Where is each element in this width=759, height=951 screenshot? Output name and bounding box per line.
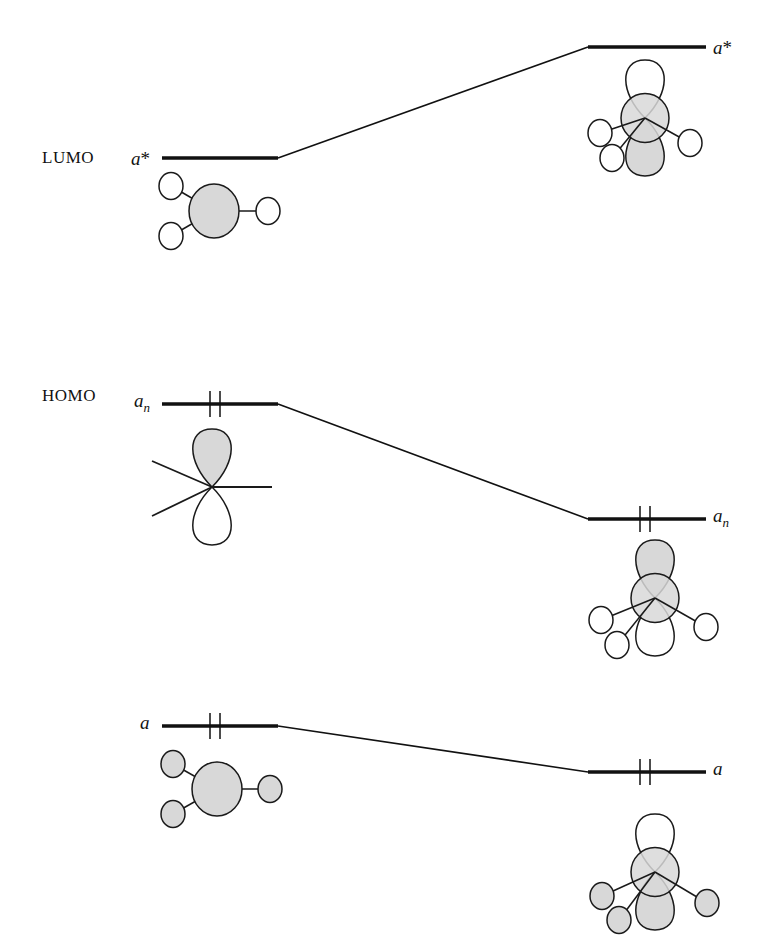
energy-level-left-a (162, 713, 278, 739)
level-label-right-a-n: an (713, 505, 729, 531)
level-label-left-a: a (140, 712, 150, 734)
orbital-ligand-lobe-left-a-star-orbital-2 (256, 198, 280, 225)
orbital-ligand-lobe-right-a-n-orbital-0 (589, 607, 613, 634)
orbital-ligand-lobe-right-a-n-orbital-2 (694, 614, 718, 641)
energy-level-right-a-n (588, 506, 706, 532)
level-label-right-a-star: a* (713, 37, 732, 59)
orbital-left-a-n-orbital (152, 429, 272, 545)
orbital-ligand-lobe-right-a-n-orbital-1 (605, 632, 629, 659)
orbital-ligand-lobe-left-a-orbital-0 (161, 751, 185, 778)
correlation-line-left-a-star (278, 47, 588, 158)
level-label-left-a-n: an (134, 390, 150, 416)
orbital-center-lobe-left-a-orbital (192, 762, 242, 816)
level-label-right-a: a (713, 758, 723, 780)
side-label-lumo: LUMO (42, 148, 94, 168)
orbital-lower-lobe-left-a-n-orbital (193, 487, 231, 545)
correlation-line-left-a-n (278, 404, 588, 519)
orbital-right-a-orbital (590, 814, 719, 933)
orbital-correlation-diagram: LUMOHOMOa*a*ananaa (0, 0, 759, 951)
orbital-left-a-star-orbital (159, 173, 280, 250)
orbital-ligand-lobe-left-a-star-orbital-1 (159, 223, 183, 250)
orbital-ligand-lobe-right-a-star-orbital-0 (588, 120, 612, 147)
orbital-ligand-lobe-left-a-orbital-2 (258, 776, 282, 803)
energy-level-left-a-n (162, 391, 278, 417)
orbital-upper-lobe-left-a-n-orbital (193, 429, 231, 487)
orbital-right-a-star-orbital (588, 60, 702, 176)
level-label-left-a-star: a* (131, 148, 150, 170)
diagram-canvas (0, 0, 759, 951)
orbital-center-lobe-left-a-star-orbital (189, 184, 239, 238)
side-label-homo: HOMO (42, 386, 96, 406)
orbital-ligand-lobe-left-a-orbital-1 (161, 801, 185, 828)
orbital-ligand-lobe-right-a-star-orbital-2 (678, 130, 702, 157)
orbital-ligand-lobe-right-a-orbital-1 (607, 907, 631, 934)
correlation-line-left-a (278, 726, 588, 772)
orbital-ligand-lobe-left-a-star-orbital-0 (159, 173, 183, 200)
orbital-left-a-orbital (161, 751, 282, 828)
orbital-ligand-lobe-right-a-orbital-2 (695, 890, 719, 917)
orbital-ligand-lobe-right-a-orbital-0 (590, 883, 614, 910)
orbital-ligand-lobe-right-a-star-orbital-1 (600, 145, 624, 172)
orbital-right-a-n-orbital (589, 540, 718, 658)
energy-level-right-a (588, 759, 706, 785)
